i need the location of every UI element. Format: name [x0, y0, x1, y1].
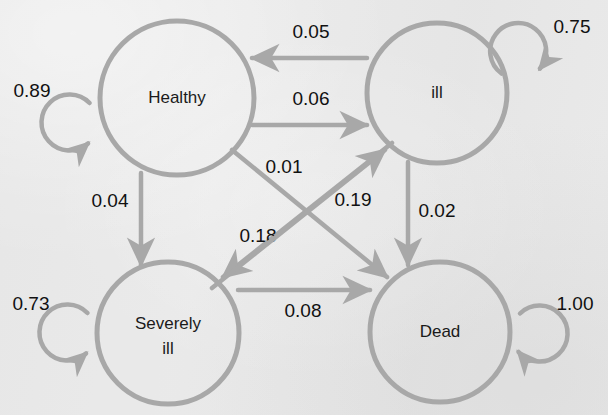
node-healthy[interactable]: Healthy — [100, 21, 254, 175]
node-ill-label: ill — [431, 83, 442, 102]
edge-healthy-to-ill[interactable]: 0.06 — [252, 88, 367, 125]
edge-severely-ill-to-ill-label: 0.19 — [335, 189, 372, 210]
self-loop-ill-label: 0.75 — [554, 16, 591, 37]
self-loop-healthy[interactable]: 0.89 — [14, 80, 90, 150]
edge-healthy-to-ill-label: 0.06 — [293, 88, 330, 109]
edge-severely-ill-to-dead-label: 0.08 — [285, 300, 322, 321]
edge-ill-to-healthy[interactable]: 0.05 — [252, 21, 367, 58]
node-severely-ill-label-line2: ill — [162, 339, 173, 358]
self-loop-severely-ill-label: 0.73 — [13, 293, 50, 314]
edge-ill-to-healthy-label: 0.05 — [293, 21, 330, 42]
self-loop-ill-arc — [490, 23, 546, 74]
node-severely-ill[interactable]: Severely ill — [97, 262, 239, 404]
self-loop-severely-ill[interactable]: 0.73 — [13, 293, 88, 361]
self-loop-healthy-label: 0.89 — [14, 80, 51, 101]
edge-ill-to-dead[interactable]: 0.02 — [408, 162, 455, 265]
diagram-canvas: 0.89 0.75 0.73 1.00 0.01 — [0, 0, 608, 415]
node-healthy-label: Healthy — [148, 88, 206, 107]
edge-healthy-to-severely-ill-label: 0.04 — [92, 190, 129, 211]
edge-healthy-to-severely-ill[interactable]: 0.04 — [92, 173, 141, 265]
node-dead-label: Dead — [420, 322, 461, 341]
edge-severely-ill-to-dead[interactable]: 0.08 — [238, 290, 370, 321]
node-dead[interactable]: Dead — [370, 262, 510, 402]
node-ill[interactable]: ill — [367, 23, 507, 163]
diagonal-edge-group: 0.01 0.18 0.19 — [212, 143, 392, 288]
node-severely-ill-label-line1: Severely — [135, 314, 202, 333]
edge-healthy-to-dead-label: 0.01 — [266, 156, 303, 177]
edge-ill-to-dead-label: 0.02 — [419, 200, 456, 221]
state-transition-diagram: 0.89 0.75 0.73 1.00 0.01 — [0, 0, 608, 415]
self-loop-ill[interactable]: 0.75 — [490, 16, 590, 73]
self-loop-dead-label: 1.00 — [557, 293, 594, 314]
self-loop-dead[interactable]: 1.00 — [519, 293, 594, 362]
self-loop-healthy-arc — [41, 94, 89, 150]
